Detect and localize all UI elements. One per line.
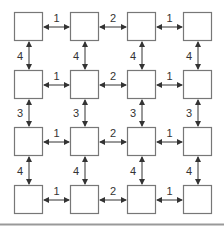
edge-weight-label: 4 (17, 165, 23, 177)
edge-weight-label: 4 (73, 165, 79, 177)
grid-node (184, 186, 212, 214)
grid-node (15, 128, 43, 156)
grid-node (184, 71, 212, 99)
grid-node (71, 128, 99, 156)
grid-node (15, 71, 43, 99)
edge-weight-label: 3 (73, 107, 79, 119)
edge-weight-label: 4 (186, 50, 192, 62)
grid-node (128, 13, 156, 41)
edge-weight-label: 4 (130, 50, 136, 62)
edge-weight-label: 1 (53, 185, 59, 197)
edge-weight-label: 4 (130, 165, 136, 177)
edge-weight-label: 2 (110, 127, 116, 139)
edge-weight-label: 1 (166, 70, 172, 82)
edge-weight-label: 1 (53, 127, 59, 139)
grid-node (71, 71, 99, 99)
edge-weight-label: 3 (130, 107, 136, 119)
grid-node (128, 186, 156, 214)
grid-node (128, 128, 156, 156)
edge-weight-label: 4 (17, 50, 23, 62)
edge-weight-label: 1 (166, 127, 172, 139)
edge-weight-label: 4 (186, 165, 192, 177)
edge-weight-label: 1 (166, 185, 172, 197)
grid-node (15, 13, 43, 41)
edge-weight-label: 1 (166, 12, 172, 24)
grid-node (71, 13, 99, 41)
edge-weight-label: 1 (53, 12, 59, 24)
edge-weight-label: 2 (110, 12, 116, 24)
edge-weight-label: 3 (17, 107, 23, 119)
edge-weight-label: 2 (110, 70, 116, 82)
grid-node (184, 128, 212, 156)
grid-node (15, 186, 43, 214)
edge-weight-label: 3 (186, 107, 192, 119)
grid-network-diagram: 121121121121444433334444 (0, 0, 224, 227)
edge-weight-label: 4 (73, 50, 79, 62)
edge-weight-label: 2 (110, 185, 116, 197)
grid-node (71, 186, 99, 214)
edge-weight-label: 1 (53, 70, 59, 82)
grid-node (128, 71, 156, 99)
grid-node (184, 13, 212, 41)
